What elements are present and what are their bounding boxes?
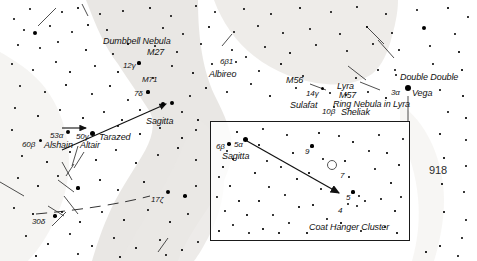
- star-point: [197, 119, 199, 121]
- star-point: [366, 26, 368, 28]
- star-point: [463, 191, 465, 193]
- label-m27: M27: [147, 48, 164, 57]
- star-point: [205, 87, 207, 89]
- star-point: [211, 63, 213, 65]
- label-sagitta-main: Sagitta: [146, 117, 173, 126]
- star-point: [117, 71, 119, 73]
- star-point: [208, 26, 210, 28]
- star-chart-root: Dumbbell NebulaM2712γM717δ6β1AlbireoM56L…: [0, 0, 477, 261]
- star-point: [53, 214, 56, 217]
- star-point: [79, 221, 81, 223]
- star-point: [346, 50, 348, 52]
- star-point: [187, 213, 189, 215]
- star-point: [32, 213, 34, 215]
- star-point: [37, 185, 39, 187]
- label-30delta-aql: 30δ: [32, 218, 45, 226]
- star-point: [77, 7, 79, 9]
- label-3alpha-lyr: 3α: [391, 89, 400, 97]
- star-point: [59, 109, 61, 111]
- star-point: [119, 256, 121, 258]
- star-point: [425, 251, 427, 253]
- star-point: [200, 43, 202, 45]
- star-point: [429, 45, 431, 47]
- label-6beta-sge: 6β: [216, 143, 225, 151]
- label-17zeta-aql: 17ζ: [151, 196, 163, 204]
- star-point: [177, 147, 179, 149]
- star-point: [356, 6, 358, 8]
- star-point: [309, 28, 311, 30]
- star-point: [29, 8, 31, 10]
- star-point: [135, 247, 137, 249]
- star-point: [465, 139, 467, 141]
- star-point: [57, 41, 59, 43]
- label-vega: Vega: [412, 89, 432, 98]
- star-point: [181, 111, 183, 113]
- star-point: [122, 10, 124, 12]
- label-sheliak: Sheliak: [341, 108, 370, 117]
- star-point: [181, 137, 183, 139]
- star-point: [32, 69, 34, 71]
- star-point: [69, 151, 71, 153]
- star-point: [95, 159, 97, 161]
- star-point: [101, 211, 103, 213]
- star-point: [13, 18, 15, 20]
- star-point: [94, 65, 96, 67]
- star-point: [447, 111, 449, 113]
- star-point: [159, 127, 161, 129]
- star-point: [299, 7, 301, 9]
- label-sulafat: Sulafat: [290, 101, 317, 110]
- star-point: [117, 189, 119, 191]
- label-star-9-vul: 9: [305, 148, 309, 156]
- star-point: [65, 84, 67, 86]
- star-point: [117, 125, 119, 127]
- star-point: [367, 91, 369, 93]
- star-point: [49, 25, 51, 27]
- star-point: [195, 159, 197, 161]
- star-point: [21, 155, 23, 157]
- star-point: [82, 117, 84, 119]
- star-point: [61, 211, 63, 213]
- star-point: [25, 235, 27, 237]
- star-point: [87, 24, 89, 26]
- star-point: [454, 33, 456, 35]
- star-point: [447, 7, 449, 9]
- star-point: [181, 249, 183, 251]
- star-point: [443, 157, 445, 159]
- star-point: [269, 95, 271, 97]
- star-point: [39, 47, 41, 49]
- star-point: [257, 25, 259, 27]
- star-point: [165, 254, 167, 256]
- open-cluster-marker: [327, 160, 337, 170]
- star-point: [61, 11, 63, 13]
- star-point: [11, 63, 13, 65]
- coat-hanger-inset-panel[interactable]: 6β5αSagitta9754Coat Hanger Cluster: [210, 121, 410, 241]
- star-point: [121, 119, 123, 121]
- star-point: [182, 33, 184, 35]
- star-point: [69, 71, 71, 73]
- star-point: [39, 139, 42, 142]
- label-sagitta-inset: Sagitta: [222, 152, 249, 161]
- star-point: [465, 117, 467, 119]
- star-point: [443, 211, 445, 213]
- star-point: [282, 32, 284, 34]
- star-point: [137, 61, 140, 64]
- star-point: [143, 181, 145, 183]
- star-point: [385, 13, 387, 15]
- star-point: [195, 5, 197, 7]
- star-point: [90, 131, 95, 136]
- star-point: [339, 33, 341, 35]
- star-point: [461, 237, 463, 239]
- star-point: [11, 129, 13, 131]
- star-point: [270, 13, 272, 15]
- star-point: [192, 72, 194, 74]
- star-point: [461, 69, 463, 71]
- label-double-double: Double Double: [400, 73, 458, 82]
- label-star-4-vul: 4: [338, 207, 342, 215]
- star-point: [465, 219, 467, 221]
- star-point: [462, 95, 464, 97]
- star-point: [147, 209, 149, 211]
- star-point: [161, 102, 165, 106]
- star-point: [398, 49, 400, 51]
- star-point: [439, 133, 441, 135]
- star-point: [17, 44, 19, 46]
